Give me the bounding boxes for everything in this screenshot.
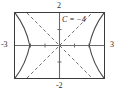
axis-label-left: -3 (1, 41, 7, 49)
plot-area (0, 0, 119, 93)
curve-constant-label: C = −4 (62, 16, 86, 24)
axis-label-top: 2 (57, 2, 61, 10)
axis-label-bottom: -2 (56, 82, 62, 90)
hyperbola-figure: 2 -2 -3 3 C = −4 (0, 0, 119, 93)
axis-label-right: 3 (110, 41, 114, 49)
